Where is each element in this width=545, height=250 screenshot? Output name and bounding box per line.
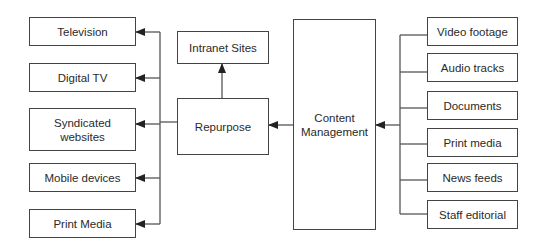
intranet-label: Intranet Sites xyxy=(189,41,257,55)
output-television: Television xyxy=(29,17,136,46)
output-syndicated-websites: Syndicated websites xyxy=(29,108,136,151)
source-label: Print media xyxy=(443,136,501,150)
source-label: News feeds xyxy=(442,171,502,185)
repurpose-box: Repurpose xyxy=(177,98,269,155)
source-documents: Documents xyxy=(427,91,518,120)
source-label: Audio tracks xyxy=(441,61,504,75)
source-staff-editorial: Staff editorial xyxy=(427,200,518,229)
output-label: Television xyxy=(57,25,108,39)
intranet-sites-box: Intranet Sites xyxy=(177,31,269,64)
source-label: Video footage xyxy=(437,25,508,39)
output-digital-tv: Digital TV xyxy=(29,63,136,92)
source-audio-tracks: Audio tracks xyxy=(427,53,518,82)
output-print-media: Print Media xyxy=(29,209,136,238)
source-label: Staff editorial xyxy=(439,208,506,222)
source-print-media: Print media xyxy=(427,128,518,157)
output-mobile-devices: Mobile devices xyxy=(29,163,136,192)
source-video-footage: Video footage xyxy=(427,17,518,46)
output-label: Print Media xyxy=(53,217,111,231)
output-label: Mobile devices xyxy=(44,171,120,185)
content-management-label: Content Management xyxy=(298,111,371,139)
output-label: Syndicated websites xyxy=(44,116,121,144)
source-news-feeds: News feeds xyxy=(427,163,518,192)
content-management-box: Content Management xyxy=(293,19,376,230)
source-label: Documents xyxy=(443,99,501,113)
output-label: Digital TV xyxy=(58,71,108,85)
repurpose-label: Repurpose xyxy=(195,120,251,134)
